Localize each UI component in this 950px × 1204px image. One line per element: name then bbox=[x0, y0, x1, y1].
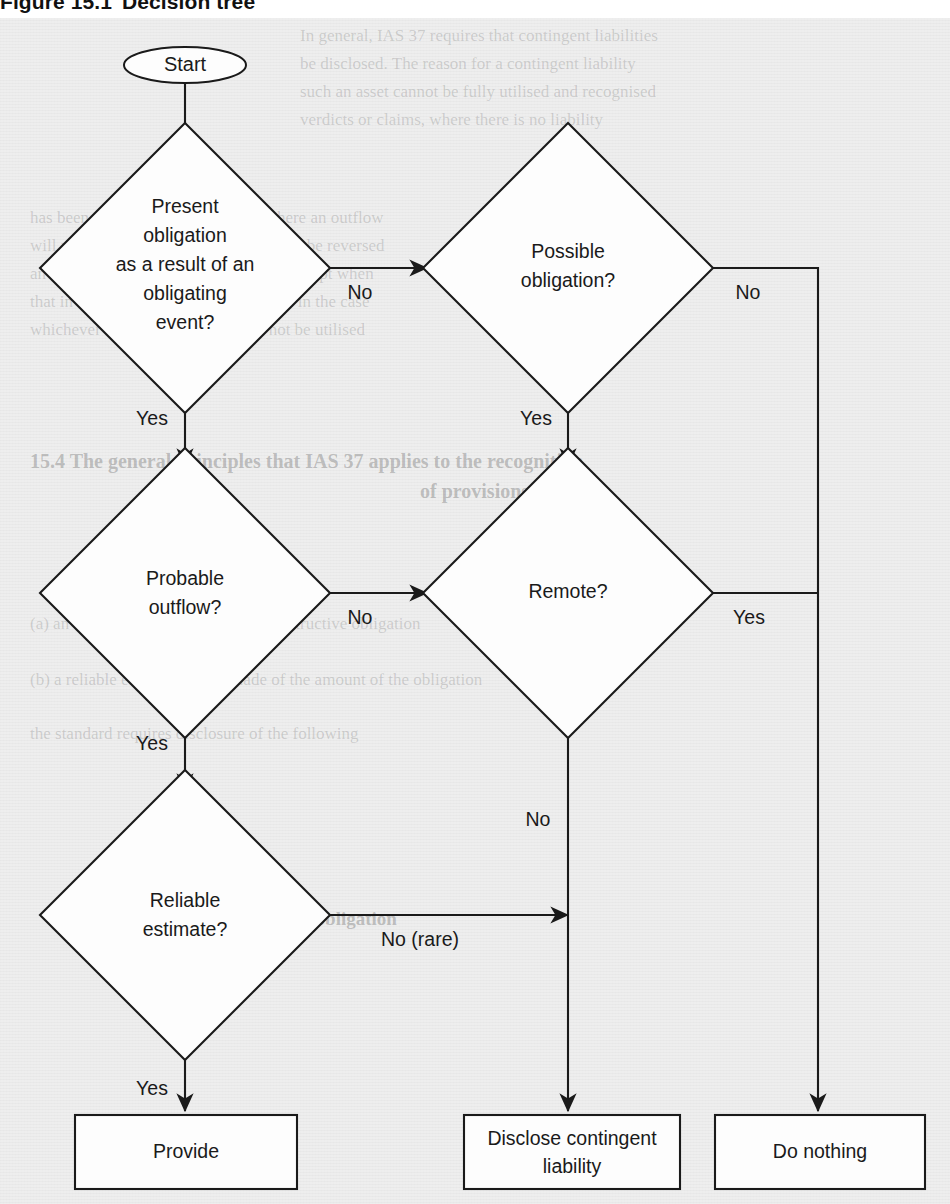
node-provide[interactable]: Provide bbox=[75, 1115, 297, 1189]
figure-title: Decision tree bbox=[122, 0, 255, 13]
decision-tree-diagram: Start Present obligation as a result of … bbox=[0, 18, 950, 1204]
possible-obligation-diamond-shape bbox=[423, 123, 713, 413]
edge-label-remote-yes: Yes bbox=[733, 606, 765, 628]
present-obligation-label-line1: Present bbox=[151, 195, 219, 217]
node-start[interactable]: Start bbox=[124, 47, 246, 83]
figure-number: Figure 15.1 bbox=[0, 0, 112, 13]
probable-outflow-diamond-shape bbox=[40, 448, 330, 738]
node-possible-obligation[interactable]: Possible obligation? bbox=[423, 123, 713, 413]
edge-label-present-obligation-yes: Yes bbox=[136, 407, 168, 429]
node-present-obligation[interactable]: Present obligation as a result of an obl… bbox=[40, 123, 330, 413]
present-obligation-label-line2: obligation bbox=[143, 224, 226, 246]
edge-possible-obligation-no-to-do-nothing bbox=[713, 268, 818, 1111]
do-nothing-label: Do nothing bbox=[773, 1140, 867, 1162]
edge-label-remote-no: No bbox=[526, 808, 551, 830]
disclose-label-line2: liability bbox=[543, 1155, 602, 1177]
reliable-estimate-label-line2: estimate? bbox=[143, 918, 228, 940]
figure-caption: Figure 15.1Decision tree bbox=[0, 0, 500, 16]
edge-label-reliable-estimate-no-rare: No (rare) bbox=[381, 928, 459, 950]
reliable-estimate-label-line1: Reliable bbox=[150, 889, 220, 911]
probable-outflow-label-line2: outflow? bbox=[149, 596, 222, 618]
disclose-label-line1: Disclose contingent bbox=[487, 1127, 657, 1149]
start-label: Start bbox=[164, 53, 207, 75]
present-obligation-label-line4: obligating bbox=[143, 282, 226, 304]
present-obligation-label-line5: event? bbox=[156, 311, 215, 333]
node-do-nothing[interactable]: Do nothing bbox=[715, 1115, 925, 1189]
edge-label-possible-obligation-no: No bbox=[736, 281, 761, 303]
provide-label: Provide bbox=[153, 1140, 219, 1162]
present-obligation-label-line3: as a result of an bbox=[116, 253, 255, 275]
edge-label-probable-outflow-yes: Yes bbox=[136, 732, 168, 754]
reliable-estimate-diamond-shape bbox=[40, 770, 330, 1060]
figure-panel: In general, IAS 37 requires that conting… bbox=[0, 18, 950, 1204]
edge-label-probable-outflow-no: No bbox=[348, 606, 373, 628]
edge-label-reliable-estimate-yes: Yes bbox=[136, 1077, 168, 1099]
edge-label-possible-obligation-yes: Yes bbox=[520, 407, 552, 429]
disclose-box-shape bbox=[464, 1115, 680, 1189]
possible-obligation-label-line1: Possible bbox=[531, 240, 605, 262]
node-probable-outflow[interactable]: Probable outflow? bbox=[40, 448, 330, 738]
remote-label: Remote? bbox=[528, 580, 607, 602]
node-disclose-contingent-liability[interactable]: Disclose contingent liability bbox=[464, 1115, 680, 1189]
possible-obligation-label-line2: obligation? bbox=[521, 269, 615, 291]
probable-outflow-label-line1: Probable bbox=[146, 567, 224, 589]
node-remote[interactable]: Remote? bbox=[423, 448, 713, 738]
edge-label-present-obligation-no: No bbox=[348, 281, 373, 303]
node-reliable-estimate[interactable]: Reliable estimate? bbox=[40, 770, 330, 1060]
